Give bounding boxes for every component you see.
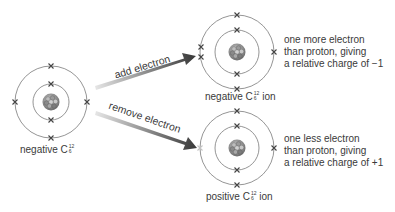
anion-atom	[199, 13, 277, 92]
cation-caption: one less electron than proton, giving a …	[284, 133, 383, 169]
atomic-number: 6	[69, 149, 75, 154]
anion-caption: one more electron than proton, giving a …	[284, 34, 383, 70]
cation-atom	[198, 109, 277, 188]
neutral-atom	[13, 64, 90, 141]
cation-atom-label: positive C126 ion	[206, 191, 273, 202]
atom-diagram	[0, 0, 395, 212]
neutral-atom-label: negative C126	[20, 144, 74, 155]
anion-atom-label: negative C126 ion	[205, 91, 276, 102]
